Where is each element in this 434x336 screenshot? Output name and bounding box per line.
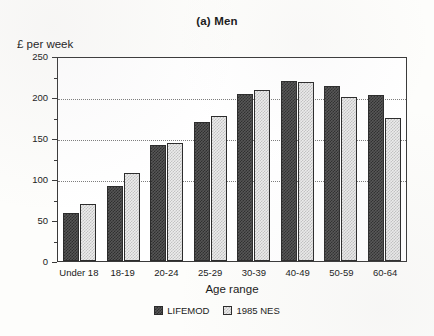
- legend-label: 1985 NES: [236, 305, 279, 316]
- legend-item[interactable]: LIFEMOD: [154, 305, 209, 316]
- bar-group: [150, 58, 183, 261]
- bar-groups: [58, 58, 406, 261]
- bar[interactable]: [385, 118, 401, 261]
- bar[interactable]: [194, 122, 210, 261]
- bar[interactable]: [368, 95, 384, 261]
- y-tick-label: 150: [0, 133, 48, 144]
- bar[interactable]: [254, 90, 270, 261]
- bar-group: [63, 58, 96, 261]
- y-tick-label: 100: [0, 174, 48, 185]
- bar[interactable]: [211, 116, 227, 261]
- y-axis-label: £ per week: [17, 38, 73, 50]
- legend-item[interactable]: 1985 NES: [223, 305, 279, 316]
- bar[interactable]: [107, 186, 123, 261]
- bar-group: [368, 58, 401, 261]
- x-tick-label: 40-49: [285, 267, 309, 278]
- bar-group: [194, 58, 227, 261]
- bar[interactable]: [167, 143, 183, 261]
- bar[interactable]: [341, 97, 357, 261]
- x-tick-label: 50-59: [329, 267, 353, 278]
- chart-title: (a) Men: [0, 15, 434, 27]
- bar[interactable]: [150, 145, 166, 261]
- legend-swatch: [154, 306, 163, 315]
- y-tick-mark: [52, 262, 57, 263]
- bar[interactable]: [324, 86, 340, 261]
- bar[interactable]: [281, 81, 297, 261]
- bar[interactable]: [124, 173, 140, 261]
- legend-label: LIFEMOD: [167, 305, 209, 316]
- x-tick-label: 20-24: [154, 267, 178, 278]
- y-tick-label: 50: [0, 215, 48, 226]
- bar-group: [107, 58, 140, 261]
- y-tick-label: 250: [0, 51, 48, 62]
- x-tick-label: Under 18: [59, 267, 98, 278]
- x-tick-label: 18-19: [110, 267, 134, 278]
- bar[interactable]: [237, 94, 253, 261]
- bar-group: [324, 58, 357, 261]
- x-tick-label: 30-39: [242, 267, 266, 278]
- x-tick-label: 25-29: [198, 267, 222, 278]
- y-tick-label: 200: [0, 92, 48, 103]
- bar-group: [281, 58, 314, 261]
- y-tick-label: 0: [0, 256, 48, 267]
- bar[interactable]: [80, 204, 96, 261]
- legend-swatch: [223, 306, 232, 315]
- chart-legend: LIFEMOD1985 NES: [0, 305, 434, 316]
- bar[interactable]: [63, 213, 79, 261]
- x-tick-label: 60-64: [373, 267, 397, 278]
- bar-group: [237, 58, 270, 261]
- x-axis-label: Age range: [57, 283, 407, 295]
- plot-area: [57, 57, 407, 262]
- bar[interactable]: [298, 82, 314, 261]
